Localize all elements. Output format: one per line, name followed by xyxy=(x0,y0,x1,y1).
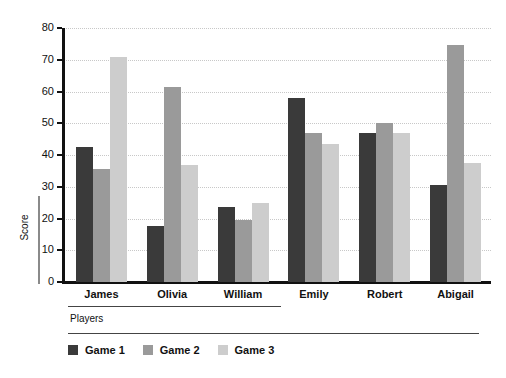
bar xyxy=(376,123,393,282)
bar xyxy=(181,165,198,282)
y-axis-tick xyxy=(57,218,62,220)
legend-swatch-icon xyxy=(68,345,78,355)
bar xyxy=(305,133,322,282)
x-axis-category-labels: JamesOliviaWilliamEmilyRobertAbigail xyxy=(66,288,491,300)
y-axis-tick-label-wrap: 30 xyxy=(18,181,54,192)
y-axis-tick xyxy=(57,186,62,188)
bar xyxy=(430,185,447,282)
y-axis-tick xyxy=(57,249,62,251)
y-axis-tick-label-wrap: 80 xyxy=(18,22,54,33)
y-axis-title: Score xyxy=(19,198,30,258)
bar xyxy=(464,163,481,282)
bar xyxy=(393,133,410,282)
legend-item: Game 2 xyxy=(143,344,200,356)
bar xyxy=(447,45,464,282)
legend-swatch-icon xyxy=(143,345,153,355)
y-axis-tick xyxy=(57,154,62,156)
x-axis-title-rule xyxy=(68,306,281,307)
bar-group xyxy=(137,28,207,282)
bar xyxy=(322,144,339,282)
y-axis-tick xyxy=(57,281,62,283)
bar xyxy=(110,57,127,282)
y-axis-tick-label: 40 xyxy=(24,149,54,160)
legend-rule xyxy=(68,333,479,334)
y-axis-tick-label-wrap: 40 xyxy=(18,149,54,160)
y-axis-tick-label-wrap: 50 xyxy=(18,117,54,128)
bar-group xyxy=(421,28,491,282)
bar xyxy=(93,169,110,282)
bar-groups xyxy=(66,28,491,282)
y-axis-spine xyxy=(62,28,65,284)
legend-swatch-icon xyxy=(218,345,228,355)
y-axis-tick-label: 70 xyxy=(24,54,54,65)
bar-group xyxy=(350,28,420,282)
y-axis-tick-label: 30 xyxy=(24,181,54,192)
x-axis-category-label: Olivia xyxy=(137,288,207,300)
legend-label: Game 2 xyxy=(160,344,200,356)
y-axis-tick xyxy=(57,27,62,29)
y-axis-tick-label-wrap: 60 xyxy=(18,86,54,97)
bar-group xyxy=(279,28,349,282)
legend-item: Game 1 xyxy=(68,344,125,356)
x-axis-category-label: Robert xyxy=(350,288,420,300)
bar xyxy=(76,147,93,282)
y-axis-tick-label-wrap: 70 xyxy=(18,54,54,65)
bar xyxy=(252,203,269,282)
x-axis-category-label: Emily xyxy=(279,288,349,300)
bar xyxy=(164,87,181,282)
bar-group xyxy=(208,28,278,282)
y-axis-tick-label: 60 xyxy=(24,86,54,97)
legend-item: Game 3 xyxy=(218,344,275,356)
legend-label: Game 1 xyxy=(85,344,125,356)
legend: Game 1Game 2Game 3 xyxy=(68,344,292,356)
y-axis-title-rule xyxy=(38,196,40,284)
x-axis-category-label: James xyxy=(66,288,136,300)
legend-label: Game 3 xyxy=(235,344,275,356)
bar xyxy=(288,98,305,282)
y-axis-tick xyxy=(57,59,62,61)
x-axis-title: Players xyxy=(70,313,103,324)
bar-group xyxy=(66,28,136,282)
bar xyxy=(359,133,376,282)
bar-chart: 01020304050607080 Score JamesOliviaWilli… xyxy=(0,0,506,378)
y-axis-tick-label-wrap: 0 xyxy=(18,276,54,287)
y-axis-tick-label: 80 xyxy=(24,22,54,33)
bar xyxy=(147,226,164,282)
y-axis-tick xyxy=(57,122,62,124)
bar xyxy=(235,220,252,282)
bar xyxy=(218,207,235,282)
y-axis-tick-label: 50 xyxy=(24,117,54,128)
y-axis-tick xyxy=(57,91,62,93)
x-axis-category-label: William xyxy=(208,288,278,300)
x-axis-category-label: Abigail xyxy=(421,288,491,300)
